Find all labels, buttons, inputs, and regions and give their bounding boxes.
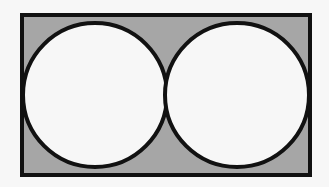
geometry-figure xyxy=(0,0,329,187)
right-circle xyxy=(165,23,309,167)
left-circle xyxy=(23,23,167,167)
